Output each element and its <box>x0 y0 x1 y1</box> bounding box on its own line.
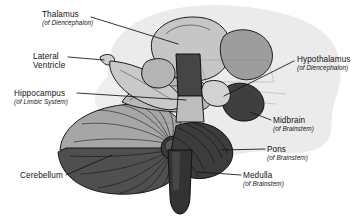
leader-lateral-ventricle <box>68 57 104 60</box>
label-hippocampus-qualifier: (of Limbic System) <box>14 99 68 106</box>
brain-anatomy-figure: Thalamus (of Diencephalon) Lateral Ventr… <box>0 0 363 219</box>
brain-illustration <box>0 0 363 219</box>
label-pons-qualifier: (of Brainstem) <box>267 155 308 162</box>
label-midbrain: Midbrain (of Brainstem) <box>273 117 314 133</box>
label-cerebellum-name: Cerebellum <box>20 172 63 181</box>
cerebellum-structure <box>58 104 187 194</box>
label-lateral-ventricle-name2: Ventricle <box>33 62 65 71</box>
label-thalamus: Thalamus (of Diencephalon) <box>42 11 93 27</box>
label-cerebellum: Cerebellum <box>20 172 63 181</box>
label-hypothalamus-qualifier: (of Diencephalon) <box>297 65 351 72</box>
label-hypothalamus: Hypothalamus (of Diencephalon) <box>297 56 351 72</box>
label-midbrain-qualifier: (of Brainstem) <box>273 126 314 133</box>
label-thalamus-qualifier: (of Diencephalon) <box>42 20 93 27</box>
label-medulla: Medulla (of Brainstem) <box>243 172 284 188</box>
label-lateral-ventricle: Lateral Ventricle <box>33 53 65 71</box>
label-medulla-qualifier: (of Brainstem) <box>243 181 284 188</box>
label-hippocampus: Hippocampus (of Limbic System) <box>14 90 68 106</box>
label-pons: Pons (of Brainstem) <box>267 146 308 162</box>
